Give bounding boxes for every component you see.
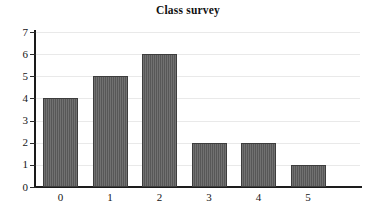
x-axis-tick-label: 3 bbox=[189, 192, 229, 203]
gridline bbox=[36, 121, 360, 122]
y-axis-tick-label: 4 bbox=[4, 93, 28, 104]
x-axis-tick-label: 0 bbox=[41, 192, 81, 203]
y-axis-tick-mark bbox=[30, 143, 36, 144]
y-axis-tick-label: 0 bbox=[4, 182, 28, 193]
y-axis-tick-label: 7 bbox=[4, 27, 28, 38]
y-axis-tick-mark bbox=[30, 187, 36, 188]
x-axis-tick-label: 1 bbox=[90, 192, 130, 203]
gridline bbox=[36, 54, 360, 55]
bar-chart: Class survey 01234567 012345 bbox=[0, 0, 376, 218]
y-axis-tick-label: 3 bbox=[4, 115, 28, 126]
y-axis-tick-mark bbox=[30, 121, 36, 122]
y-axis-tick-mark bbox=[30, 32, 36, 33]
y-axis-tick-label: 5 bbox=[4, 71, 28, 82]
y-axis-tick-labels: 01234567 bbox=[0, 0, 28, 218]
bar[interactable] bbox=[291, 165, 326, 187]
gridline bbox=[36, 32, 360, 33]
bar[interactable] bbox=[93, 76, 128, 187]
gridline bbox=[36, 76, 360, 77]
y-axis-tick-label: 6 bbox=[4, 49, 28, 60]
chart-title: Class survey bbox=[0, 4, 376, 16]
y-axis-tick-mark bbox=[30, 76, 36, 77]
x-axis-tick-label: 5 bbox=[288, 192, 328, 203]
y-axis-tick-mark bbox=[30, 54, 36, 55]
x-axis-tick-label: 4 bbox=[239, 192, 279, 203]
plot-area bbox=[36, 32, 360, 187]
y-axis-tick-label: 2 bbox=[4, 137, 28, 148]
bar[interactable] bbox=[43, 98, 78, 187]
bar[interactable] bbox=[142, 54, 177, 187]
y-axis-tick-mark bbox=[30, 98, 36, 99]
bar[interactable] bbox=[241, 143, 276, 187]
y-axis-tick-label: 1 bbox=[4, 159, 28, 170]
bar[interactable] bbox=[192, 143, 227, 187]
x-axis-tick-label: 2 bbox=[140, 192, 180, 203]
gridline bbox=[36, 98, 360, 99]
y-axis-tick-mark bbox=[30, 165, 36, 166]
